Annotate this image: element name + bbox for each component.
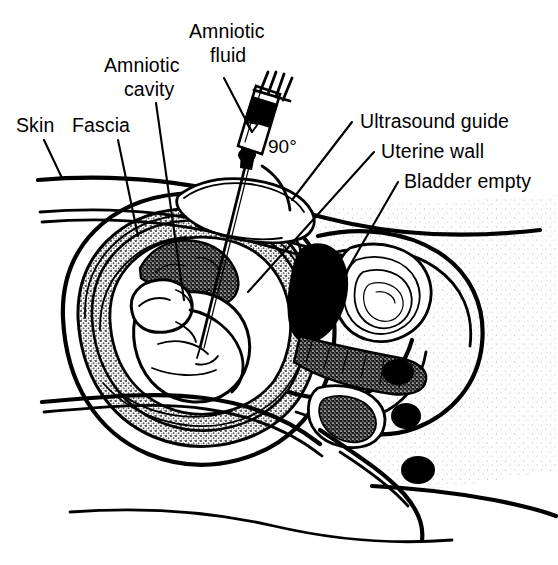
label-amniotic-cavity-line1: Amniotic bbox=[104, 54, 180, 76]
label-angle-90: 90° bbox=[268, 136, 297, 157]
abdominal-body-mass bbox=[299, 195, 558, 492]
pubic-bone-section bbox=[401, 456, 435, 484]
leader-skin bbox=[44, 140, 62, 178]
amniocentesis-illustration: Skin Fascia Amniotic cavity Amniotic flu… bbox=[0, 0, 558, 565]
bladder-empty bbox=[334, 244, 432, 341]
leader-amniotic-fluid bbox=[224, 78, 252, 132]
thigh-contour bbox=[70, 510, 452, 542]
label-amniotic-fluid-line2: fluid bbox=[210, 44, 246, 66]
amniocentesis-figure: Skin Fascia Amniotic cavity Amniotic flu… bbox=[0, 0, 558, 565]
label-bladder-empty: Bladder empty bbox=[404, 170, 531, 192]
label-uterine-wall: Uterine wall bbox=[381, 140, 484, 162]
maternal-soft-tissue-shading bbox=[299, 195, 558, 492]
vessel-section-1 bbox=[382, 359, 414, 385]
plunger-rod-4 bbox=[283, 78, 292, 100]
label-amniotic-fluid-line1: Amniotic bbox=[189, 20, 265, 42]
label-amniotic-cavity-line2: cavity bbox=[124, 78, 175, 100]
vessel-section-2 bbox=[391, 403, 421, 429]
leader-ultrasound-guide bbox=[292, 122, 352, 200]
label-ultrasound-guide: Ultrasound guide bbox=[360, 110, 509, 132]
label-fascia: Fascia bbox=[72, 114, 130, 136]
label-skin: Skin bbox=[16, 114, 54, 136]
bladder-outer-wall bbox=[334, 244, 432, 341]
